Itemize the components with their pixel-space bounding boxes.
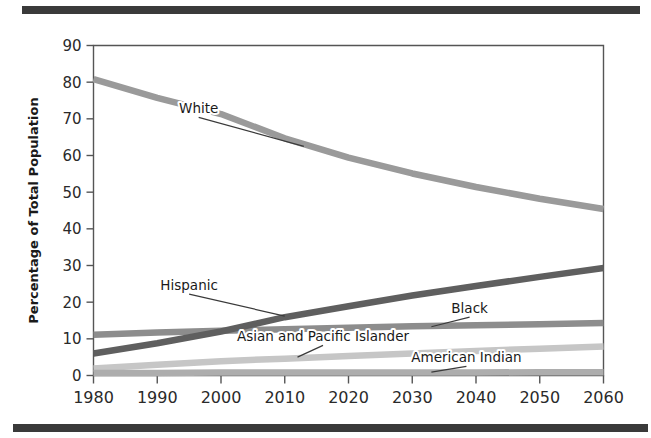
series-label-american-indian: American IndianAmerican Indian — [411, 349, 521, 372]
x-tick-label: 1990 — [137, 388, 178, 407]
series-label-text: Asian and Pacific Islander — [237, 328, 409, 344]
series-line-asian-and-pacific-islander — [94, 347, 604, 369]
y-tick-label: 0 — [72, 367, 82, 385]
x-tick-label: 2060 — [583, 388, 624, 407]
series-line-white — [94, 79, 604, 209]
series-label-text: Black — [451, 300, 488, 316]
y-tick-label: 40 — [62, 220, 81, 238]
y-tick-label: 50 — [62, 184, 81, 202]
x-tick-label: 2050 — [519, 388, 560, 407]
x-tick-label: 2010 — [264, 388, 305, 407]
leader-line — [189, 294, 285, 316]
series-label-text: American Indian — [411, 349, 521, 365]
x-axis: 198019902000201020202030204020502060 — [73, 376, 624, 407]
y-tick-label: 90 — [62, 37, 81, 55]
series-label-hispanic: HispanicHispanic — [160, 277, 284, 316]
y-tick-label: 70 — [62, 110, 81, 128]
figure-root: 0102030405060708090Percentage of Total P… — [0, 0, 651, 438]
x-tick-label: 1980 — [73, 388, 114, 407]
y-axis-title: Percentage of Total Population — [26, 97, 41, 323]
y-axis: 0102030405060708090 — [62, 37, 93, 385]
y-tick-label: 30 — [62, 257, 81, 275]
line-chart: 0102030405060708090Percentage of Total P… — [0, 0, 651, 438]
y-tick-label: 60 — [62, 147, 81, 165]
series-line-american-indian — [94, 372, 604, 373]
y-tick-label: 20 — [62, 294, 81, 312]
x-tick-label: 2020 — [328, 388, 369, 407]
x-tick-label: 2000 — [201, 388, 242, 407]
y-tick-label: 10 — [62, 330, 81, 348]
leader-line — [199, 117, 304, 146]
series-label-text: White — [179, 100, 218, 116]
series-label-text: Hispanic — [160, 277, 218, 293]
x-tick-label: 2030 — [392, 388, 433, 407]
y-tick-label: 80 — [62, 74, 81, 92]
x-tick-label: 2040 — [456, 388, 497, 407]
